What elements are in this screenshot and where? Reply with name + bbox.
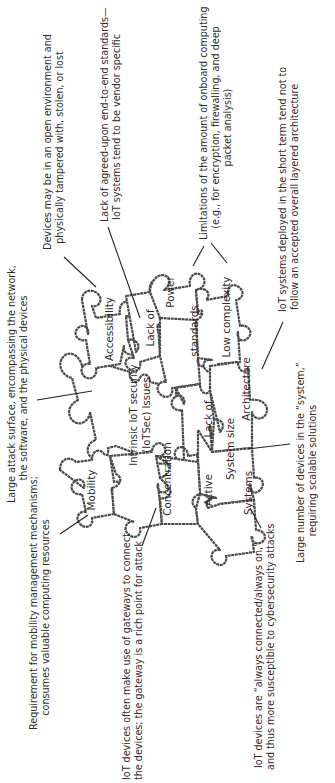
annotation-line: requiring scalable solutions [307, 378, 319, 563]
annotation-line: Large number of devices in the “system,” [295, 378, 307, 563]
leader-line-accessibility [64, 257, 96, 287]
label-active: Active [202, 470, 215, 510]
label-line: Power [164, 272, 177, 312]
label-line: Concentration [161, 438, 174, 520]
label-systems: Systems [242, 466, 255, 520]
label-accessibility: Accessibility [103, 296, 116, 362]
label-system-size: System size [224, 416, 237, 482]
annotation-line: Devices may be in an open environment an… [42, 45, 54, 250]
label-line: System size [224, 416, 237, 482]
annotation-line: IoT devices often make use of gateways t… [121, 550, 133, 780]
annotation-line: Requirement for mobility management mech… [28, 505, 40, 730]
annotation-line: Large attack surface, encompassing the n… [6, 273, 18, 503]
annotation-line: IoT systems deployed in the short term t… [277, 82, 289, 312]
annotation-line: Limitations of the amount of onboard com… [198, 15, 210, 240]
leader-line-system-size [248, 444, 290, 449]
annotation-attack-surface: Large attack surface, encompassing the n… [6, 273, 30, 503]
label-lack-of-architecture-1: Lack of [202, 396, 215, 442]
annotation-line: and thus more susceptible to cybersecuri… [265, 540, 277, 770]
leader-line-power [193, 246, 204, 266]
iot-security-puzzle-diagram: Devices may be in an open environment an… [0, 0, 335, 783]
label-line: Lack of [144, 306, 157, 350]
label-lack-of-architecture-2: Architecture [240, 354, 253, 424]
label-line: Intrinsic IoT security [128, 360, 141, 470]
label-low-complexity: Low complexity [220, 274, 233, 360]
annotation-onboard-computing: Limitations of the amount of onboard com… [198, 15, 234, 240]
annotation-line: follow an accepted overall layered archi… [289, 82, 301, 312]
label-line: standards [188, 300, 201, 362]
label-line: Active [202, 470, 215, 510]
label-intrinsic-iotsec: Intrinsic IoT security (IoTSec) Issues [128, 360, 153, 470]
label-line: Architecture [240, 354, 253, 424]
annotation-system-size: Large number of devices in the “system,”… [295, 378, 319, 563]
annotation-line: consumes valuable computing resources [40, 505, 52, 730]
label-line: Mobility [85, 465, 98, 515]
annotation-line: IoT devices are “always connected/always… [253, 540, 265, 770]
leader-line-architecture [262, 322, 283, 369]
annotation-line: physically tampered with, stolen, or los… [54, 45, 66, 250]
label-line: (IoTSec) Issues [141, 360, 154, 470]
label-lack-of-standards-2: standards [188, 300, 201, 362]
annotation-accessibility: Devices may be in an open environment an… [42, 45, 66, 250]
annotation-line: Lack of agreed-upon end-to-end standards… [99, 32, 111, 222]
annotation-line: (e.g., for encryption, firewalling, and … [210, 15, 222, 240]
leader-line-low-complexity [211, 243, 227, 263]
label-line: Accessibility [103, 296, 116, 362]
label-line: Systems [242, 466, 255, 520]
annotation-mobility: Requirement for mobility management mech… [28, 505, 52, 730]
label-line: Low complexity [220, 274, 233, 360]
label-mobility: Mobility [85, 465, 98, 515]
label-line: Lack of [202, 396, 215, 442]
annotation-architecture: IoT systems deployed in the short term t… [277, 82, 301, 312]
annotation-line: the devices; the gateway is a rich point… [133, 550, 145, 780]
annotation-line: the software, and the physical devices [18, 273, 30, 503]
label-lack-of-standards-1: Lack of [144, 306, 157, 350]
annotation-line: packet analysis) [222, 15, 234, 240]
annotation-lack-of-standards: Lack of agreed-upon end-to-end standards… [99, 32, 123, 222]
label-concentration: Concentration [161, 438, 174, 520]
label-power: Power [164, 272, 177, 312]
annotation-active-systems: IoT devices are “always connected/always… [253, 540, 277, 770]
puzzle-piece-architecture [210, 362, 267, 452]
annotation-line: IoT systems tend to be vendor specific [111, 32, 123, 222]
annotation-concentration: IoT devices often make use of gateways t… [121, 550, 145, 780]
